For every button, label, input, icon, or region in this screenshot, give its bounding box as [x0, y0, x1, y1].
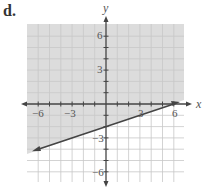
y-axis-label: y	[102, 1, 109, 15]
y-axis-arrow-down	[104, 181, 109, 187]
y-tick-label: −3	[92, 132, 104, 144]
y-tick-label: −6	[92, 166, 104, 178]
inequality-graph: −6 −3 3 6 6 3 −3 −6 y x	[0, 0, 213, 187]
x-axis-arrow-left	[21, 102, 27, 107]
x-tick-label: −6	[32, 107, 44, 119]
y-tick-label: 3	[97, 63, 103, 75]
x-tick-label: 6	[172, 107, 178, 119]
x-axis-arrow-right	[186, 102, 192, 107]
x-tick-label: 3	[138, 107, 144, 119]
x-axis-label: x	[195, 97, 202, 111]
x-tick-label: −3	[64, 107, 76, 119]
y-tick-label: 6	[97, 29, 103, 41]
y-axis-arrow-up	[104, 16, 109, 22]
